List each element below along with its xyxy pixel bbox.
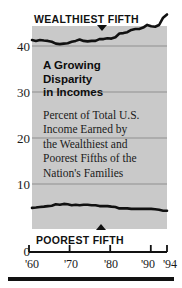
income-disparity-chart: 40 30 20 10 0 '60 '70 '80 '90 '94 WEALTH…	[0, 0, 182, 288]
x-axis-labels: '60 '70 '80 '90 '94	[0, 258, 182, 274]
bottom-divider	[8, 277, 174, 281]
caret-up-icon	[96, 224, 106, 230]
x-tick-label-1994: '94	[163, 258, 177, 270]
x-tick-label-1970: '70	[64, 258, 78, 270]
y-axis-labels: 40 30 20 10 0	[0, 0, 30, 288]
x-tick-label-1990: '90	[141, 258, 155, 270]
x-axis	[29, 245, 167, 252]
title-block: A Growing Disparity in Incomes Percent o…	[43, 59, 165, 180]
y-tick-label-10: 10	[2, 178, 30, 191]
x-tick-label-1960: '60	[25, 258, 39, 270]
y-tick-label-20: 20	[2, 132, 30, 145]
series-label-poorest: POOREST FIFTH	[36, 234, 124, 246]
x-tick-label-1980: '80	[104, 258, 118, 270]
series-line-poorest	[32, 204, 167, 211]
series-label-wealthiest: WEALTHIEST FIFTH	[34, 13, 139, 25]
chart-subtitle: Percent of Total U.S. Income Earned by t…	[43, 108, 165, 181]
y-tick-label-40: 40	[2, 40, 30, 53]
chart-title: A Growing Disparity in Incomes	[43, 59, 165, 100]
caret-down-icon	[97, 25, 107, 31]
y-tick-label-30: 30	[2, 86, 30, 99]
